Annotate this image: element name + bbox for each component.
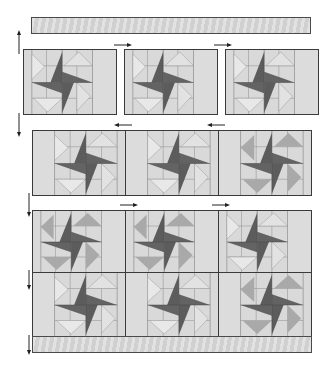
- top-border-strip: [31, 17, 311, 34]
- press-right-arrow-icon: [212, 202, 230, 208]
- quilt-block-r3-c1: [32, 210, 126, 273]
- press-right-arrow-icon: [120, 202, 138, 208]
- quilt-block-r1-c2: [124, 49, 218, 115]
- quilt-block-r1-c3: [225, 49, 319, 115]
- quilt-block-r4-c1: [32, 272, 126, 337]
- quilt-block-r2-c2: [125, 130, 219, 196]
- quilt-block-r3-c2: [125, 210, 219, 273]
- quilt-block-r4-c3: [218, 272, 312, 337]
- quilt-block-r2-c3: [218, 130, 312, 196]
- quilt-block-r3-c3: [218, 210, 312, 273]
- press-left-arrow-icon: [114, 122, 132, 128]
- bottom-border-strip: [32, 336, 312, 353]
- arrow-up-icon: [16, 30, 22, 54]
- arrow-down-icon: [16, 113, 22, 137]
- press-right-arrow-icon: [214, 42, 232, 48]
- quilt-block-r4-c2: [125, 272, 219, 337]
- quilt-block-r2-c1: [32, 130, 126, 196]
- press-right-arrow-icon: [114, 42, 132, 48]
- press-left-arrow-icon: [207, 122, 225, 128]
- quilt-block-r1-c1: [23, 49, 117, 115]
